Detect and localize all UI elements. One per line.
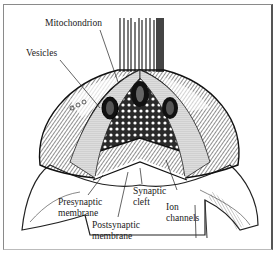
label-synaptic-line2: cleft — [133, 197, 150, 207]
label-mitochondrion: Mitochondrion — [45, 18, 102, 28]
label-vesicles: Vesicles — [26, 48, 57, 58]
label-presynaptic-line2: membrane — [58, 208, 98, 218]
label-presynaptic-line1: Presynaptic — [58, 197, 102, 207]
label-postsynaptic-line2: membrane — [92, 231, 132, 241]
label-ion-line1: Ion — [166, 202, 179, 212]
leader-synaptic-cleft — [140, 168, 142, 184]
label-synaptic-line1: Synaptic — [133, 186, 166, 196]
synapse-illustration — [0, 0, 278, 253]
label-postsynaptic-line1: Postsynaptic — [92, 220, 140, 230]
axon — [118, 18, 164, 74]
label-ion-line2: channels — [166, 213, 199, 223]
